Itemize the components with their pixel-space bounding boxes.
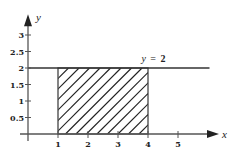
x-axis-arrow-icon bbox=[207, 130, 219, 138]
y-axis-label: y bbox=[35, 11, 41, 23]
x-axis-label: x bbox=[221, 128, 227, 140]
hatch-line bbox=[97, 68, 163, 134]
x-tick-label: 3 bbox=[115, 139, 121, 149]
chart: 123450.511.522.53 x y y = 2 bbox=[0, 0, 235, 157]
y-tick-label: 2.5 bbox=[10, 47, 24, 57]
shaded-region bbox=[0, 68, 216, 134]
hatch-line bbox=[129, 68, 195, 134]
hatch-line bbox=[66, 68, 132, 134]
y-tick-label: 1 bbox=[18, 96, 24, 106]
x-tick-label: 5 bbox=[175, 139, 181, 149]
hatch-line bbox=[108, 68, 174, 134]
hatch-line bbox=[150, 68, 216, 134]
hatch-line bbox=[139, 68, 205, 134]
annot-val: 2 bbox=[160, 53, 165, 64]
hatch-line bbox=[24, 68, 90, 134]
hatch-line bbox=[87, 68, 153, 134]
y-tick-label: 2 bbox=[18, 63, 24, 73]
y-tick-label: 3 bbox=[18, 30, 24, 40]
hatch-line bbox=[45, 68, 111, 134]
annot-var: y bbox=[140, 53, 146, 64]
annot-eq: = bbox=[150, 53, 156, 64]
hatch-line bbox=[118, 68, 184, 134]
ticks: 123450.511.522.53 bbox=[10, 30, 181, 149]
x-tick-label: 4 bbox=[145, 139, 151, 149]
hatch-line bbox=[55, 68, 121, 134]
hatch-pattern bbox=[0, 68, 216, 134]
reference-line-label: y = 2 bbox=[140, 53, 165, 64]
shaded-region-border bbox=[58, 68, 148, 134]
y-tick-label: 1.5 bbox=[10, 80, 24, 90]
y-axis-arrow-icon bbox=[24, 14, 32, 26]
x-tick-label: 2 bbox=[85, 139, 91, 149]
hatch-line bbox=[34, 68, 100, 134]
hatch-line bbox=[76, 68, 142, 134]
y-tick-label: 0.5 bbox=[10, 113, 24, 123]
x-tick-label: 1 bbox=[55, 139, 61, 149]
